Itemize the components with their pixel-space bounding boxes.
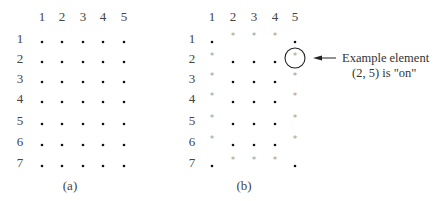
dot-off bbox=[41, 41, 44, 44]
row-label: 4 bbox=[189, 91, 196, 106]
row-label: 5 bbox=[189, 113, 196, 128]
dot-off bbox=[61, 101, 64, 104]
row-label: 1 bbox=[17, 31, 24, 46]
dot-off bbox=[82, 81, 85, 84]
dot-off bbox=[102, 81, 105, 84]
star-on: * bbox=[293, 91, 298, 101]
star-on: * bbox=[210, 134, 215, 144]
dot-off bbox=[102, 101, 105, 104]
column-label: 3 bbox=[251, 9, 258, 24]
row-label: 3 bbox=[189, 71, 196, 86]
star-on: * bbox=[252, 31, 257, 41]
column-label: 5 bbox=[292, 9, 299, 24]
dot-off bbox=[123, 144, 126, 147]
column-label: 3 bbox=[80, 9, 87, 24]
dot-off bbox=[41, 165, 44, 168]
dot-off bbox=[123, 101, 126, 104]
dot-off bbox=[41, 101, 44, 104]
star-on: * bbox=[293, 134, 298, 144]
dot-off bbox=[232, 123, 235, 126]
dot-off bbox=[232, 101, 235, 104]
star-on: * bbox=[293, 51, 298, 61]
dot-off bbox=[211, 41, 214, 44]
column-label: 5 bbox=[121, 9, 128, 24]
dot-matrix-figure: 123451234567 123451***2**3**4**5**6**7**… bbox=[0, 0, 438, 201]
dot-off bbox=[123, 81, 126, 84]
dot-off bbox=[41, 144, 44, 147]
star-on: * bbox=[210, 113, 215, 123]
annotation-line-1: Example element bbox=[342, 51, 430, 65]
dot-off bbox=[82, 165, 85, 168]
dot-off bbox=[123, 41, 126, 44]
star-on: * bbox=[293, 71, 298, 81]
dot-off bbox=[102, 41, 105, 44]
dot-off bbox=[61, 144, 64, 147]
column-label: 4 bbox=[272, 9, 279, 24]
dot-off bbox=[82, 41, 85, 44]
caption-a: (a) bbox=[63, 178, 77, 193]
dot-off bbox=[61, 81, 64, 84]
star-on: * bbox=[252, 155, 257, 165]
dot-off bbox=[102, 123, 105, 126]
star-on: * bbox=[231, 155, 236, 165]
column-label: 1 bbox=[39, 9, 46, 24]
dot-off bbox=[41, 123, 44, 126]
star-on: * bbox=[210, 71, 215, 81]
dot-off bbox=[82, 123, 85, 126]
column-label: 2 bbox=[59, 9, 66, 24]
dot-off bbox=[253, 144, 256, 147]
dot-off bbox=[232, 81, 235, 84]
star-on: * bbox=[273, 155, 278, 165]
dot-off bbox=[102, 144, 105, 147]
row-label: 4 bbox=[17, 91, 24, 106]
dot-off bbox=[41, 81, 44, 84]
dot-off bbox=[274, 144, 277, 147]
dot-off bbox=[232, 144, 235, 147]
annotation-line-2: (2, 5) is "on" bbox=[352, 66, 416, 80]
dot-off bbox=[61, 165, 64, 168]
dot-off bbox=[123, 165, 126, 168]
dot-off bbox=[102, 165, 105, 168]
panel-b-grid: 123451***2**3**4**5**6**7*** bbox=[189, 9, 299, 170]
row-label: 2 bbox=[17, 51, 24, 66]
dot-off bbox=[61, 61, 64, 64]
dot-off bbox=[274, 123, 277, 126]
dot-off bbox=[61, 123, 64, 126]
star-on: * bbox=[293, 113, 298, 123]
dot-off bbox=[82, 61, 85, 64]
dot-off bbox=[211, 165, 214, 168]
dot-off bbox=[102, 61, 105, 64]
row-label: 6 bbox=[189, 134, 196, 149]
row-label: 7 bbox=[189, 155, 196, 170]
dot-off bbox=[253, 123, 256, 126]
row-label: 7 bbox=[17, 155, 24, 170]
dot-off bbox=[82, 101, 85, 104]
dot-off bbox=[294, 41, 297, 44]
row-label: 2 bbox=[189, 51, 196, 66]
caption-b: (b) bbox=[236, 178, 251, 193]
dot-off bbox=[61, 41, 64, 44]
dot-off bbox=[82, 144, 85, 147]
dot-off bbox=[41, 61, 44, 64]
dot-off bbox=[274, 101, 277, 104]
dot-off bbox=[253, 101, 256, 104]
column-label: 2 bbox=[230, 9, 237, 24]
dot-off bbox=[274, 61, 277, 64]
row-label: 1 bbox=[189, 31, 196, 46]
dot-off bbox=[232, 61, 235, 64]
dot-off bbox=[123, 61, 126, 64]
arrow-icon bbox=[313, 56, 336, 61]
star-on: * bbox=[210, 91, 215, 101]
column-label: 4 bbox=[100, 9, 107, 24]
column-label: 1 bbox=[209, 9, 216, 24]
row-label: 5 bbox=[17, 113, 24, 128]
row-label: 6 bbox=[17, 134, 24, 149]
row-label: 3 bbox=[17, 71, 24, 86]
dot-off bbox=[253, 61, 256, 64]
dot-off bbox=[294, 165, 297, 168]
dot-off bbox=[123, 123, 126, 126]
dot-off bbox=[253, 81, 256, 84]
star-on: * bbox=[273, 31, 278, 41]
panel-a-grid: 123451234567 bbox=[17, 9, 128, 170]
star-on: * bbox=[231, 31, 236, 41]
